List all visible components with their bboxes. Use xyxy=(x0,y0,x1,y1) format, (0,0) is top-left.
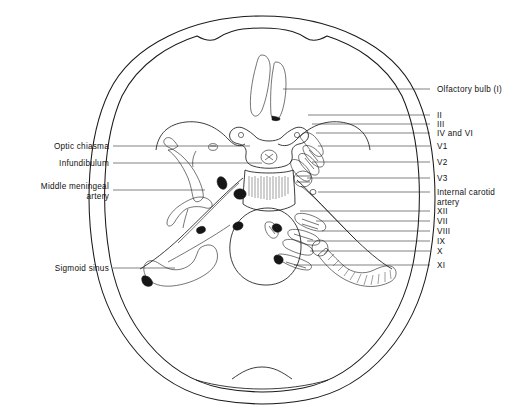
label-middle-meningeal-artery-line1: Middle meningeal xyxy=(41,182,109,191)
label-nerve-V3: V3 xyxy=(437,174,448,183)
label-nerve-X: X xyxy=(437,247,443,256)
label-olfactory-bulb: Olfactory bulb (I) xyxy=(437,85,502,94)
label-internal-carotid-artery-line2: artery xyxy=(437,198,460,207)
label-internal-carotid-artery-line1: Internal carotid xyxy=(437,188,495,197)
sphenoid-sella xyxy=(230,127,309,168)
cranial-base-figure: Olfactory bulb (I) II III IV and VI V1 V… xyxy=(0,0,523,413)
foramen-magnum xyxy=(230,208,301,285)
label-nerve-IV-and-VI: IV and VI xyxy=(437,129,473,138)
trigeminal-branches xyxy=(291,133,324,195)
petrous-ridges xyxy=(140,178,392,269)
label-nerve-II: II xyxy=(437,111,442,120)
label-nerve-IX: IX xyxy=(437,237,446,246)
clivus xyxy=(243,170,295,211)
label-optic-chiasma: Optic chiasma xyxy=(54,142,109,151)
label-nerve-XI: XI xyxy=(437,261,445,270)
label-nerve-V1: V1 xyxy=(437,142,448,151)
label-infundibulum: Infundibulum xyxy=(59,159,109,168)
middle-meningeal-artery-structure xyxy=(164,138,212,228)
skull-outline xyxy=(89,16,435,404)
label-sigmoid-sinus: Sigmoid sinus xyxy=(55,264,109,273)
label-nerve-V2: V2 xyxy=(437,158,448,167)
olfactory-bulb-group xyxy=(250,55,286,121)
label-nerve-VIII: VIII xyxy=(437,227,450,236)
right-sigmoid-groove xyxy=(318,248,396,287)
label-nerve-III: III xyxy=(437,120,445,129)
label-nerve-XII: XII xyxy=(437,207,448,216)
sigmoid-sinus-structure xyxy=(142,245,218,286)
label-text-left: Optic chiasma Infundibulum Middle mening… xyxy=(41,142,110,273)
label-nerve-VII: VII xyxy=(437,217,448,226)
posterior-nerve-group xyxy=(265,213,328,270)
clivus-hatching xyxy=(249,176,288,200)
label-text-right: Olfactory bulb (I) II III IV and VI V1 V… xyxy=(437,85,502,270)
label-middle-meningeal-artery-line2: artery xyxy=(87,192,110,201)
